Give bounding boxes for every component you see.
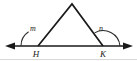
vertex-label-h: H	[32, 49, 40, 59]
geometry-canvas: H K m n	[0, 0, 137, 61]
angle-label-m: m	[30, 24, 36, 33]
triangle-legs	[38, 4, 103, 46]
vertex-label-k: K	[99, 49, 107, 59]
geometry-figure: H K m n	[0, 0, 137, 61]
angle-arc-m	[21, 32, 29, 46]
left-arrowhead-icon	[5, 42, 15, 49]
right-arrowhead-icon	[123, 42, 133, 49]
angle-label-n: n	[99, 24, 103, 33]
